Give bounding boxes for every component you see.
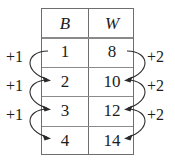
cell-w-2: 10	[89, 67, 135, 96]
cell-b-1: 1	[42, 37, 88, 66]
left-increment-label-1: +1	[6, 48, 23, 66]
column-header-w: W	[89, 9, 135, 38]
cell-b-2: 2	[42, 67, 88, 96]
right-increment-label-2: +2	[147, 77, 164, 95]
column-header-b: B	[42, 9, 88, 38]
figure-canvas: B W 1 8 2 10 3 12 4 14 +1 +1 +1 +2 +2 +2	[0, 0, 175, 163]
cell-b-3: 3	[42, 96, 88, 125]
cell-w-4: 14	[89, 126, 135, 155]
left-increment-label-3: +1	[6, 106, 23, 124]
left-increment-label-2: +1	[6, 77, 23, 95]
cell-b-4: 4	[42, 126, 88, 155]
value-table: B W 1 8 2 10 3 12 4 14	[41, 8, 134, 155]
cell-w-1: 8	[89, 37, 135, 66]
right-increment-label-3: +2	[147, 106, 164, 124]
cell-w-3: 12	[89, 96, 135, 125]
right-increment-label-1: +2	[147, 48, 164, 66]
